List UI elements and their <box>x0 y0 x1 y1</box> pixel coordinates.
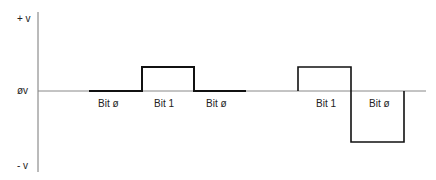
bit-label: Bit ø <box>369 98 390 110</box>
bit-label: Bit 1 <box>316 98 336 110</box>
label-minus-v: - v <box>17 160 28 172</box>
bit-label: Bit 1 <box>154 98 174 110</box>
bit-label: Bit ø <box>98 98 119 110</box>
signal-trace-1 <box>89 67 246 91</box>
label-zero-v: øv <box>17 85 28 97</box>
bit-label: Bit ø <box>206 98 227 110</box>
waveform-diagram <box>0 0 436 180</box>
label-plus-v: + v <box>17 13 31 25</box>
